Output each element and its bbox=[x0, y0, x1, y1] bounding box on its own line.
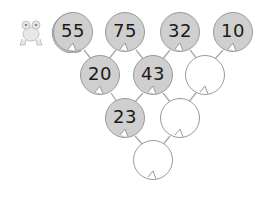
pad-number bbox=[183, 54, 227, 94]
lily-pad-r2-c1: 20 bbox=[78, 54, 122, 96]
lily-pad-r1-c1: 55 bbox=[51, 11, 95, 53]
lily-pad-r3-c1: 23 bbox=[103, 97, 147, 139]
pad-number: 55 bbox=[51, 11, 95, 51]
lily-pad-r2-c3-empty[interactable] bbox=[183, 54, 227, 96]
pad-number: 23 bbox=[103, 97, 147, 137]
lily-pad-r1-c2: 75 bbox=[103, 11, 147, 53]
pad-number: 75 bbox=[103, 11, 147, 51]
pad-number bbox=[158, 97, 202, 137]
lily-pad-r2-c2: 43 bbox=[131, 54, 175, 96]
lily-pad-r4-c1-empty[interactable] bbox=[131, 139, 175, 181]
pad-number: 32 bbox=[158, 11, 202, 51]
frog-icon bbox=[18, 19, 44, 47]
lily-pad-r1-c4: 10 bbox=[211, 11, 255, 53]
pad-number: 10 bbox=[211, 11, 255, 51]
pad-number: 43 bbox=[131, 54, 175, 94]
lily-pad-r3-c2-empty[interactable] bbox=[158, 97, 202, 139]
lily-pad-r1-c3: 32 bbox=[158, 11, 202, 53]
pad-number bbox=[131, 139, 175, 179]
pad-number: 20 bbox=[78, 54, 122, 94]
